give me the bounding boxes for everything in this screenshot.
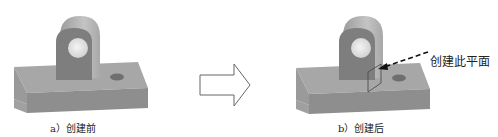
bracket-part-before-image <box>0 0 170 117</box>
transition-arrow <box>198 62 252 108</box>
caption-before: a）创建前 <box>50 120 96 135</box>
figure-after <box>280 0 450 117</box>
bracket-part-after-image <box>280 0 450 117</box>
callout-create-plane: 创建此平面 <box>430 52 490 69</box>
figure-before <box>0 0 170 117</box>
right-arrow-icon <box>198 62 252 108</box>
caption-after: b）创建后 <box>338 120 384 135</box>
